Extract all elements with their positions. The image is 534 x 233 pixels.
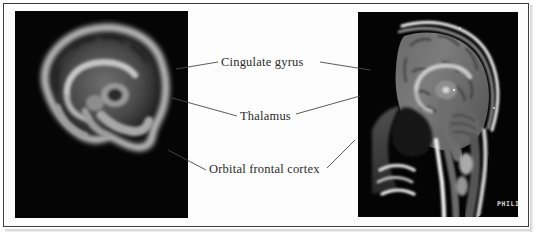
brain-scan-graphic xyxy=(15,11,188,218)
page-shadow-right xyxy=(530,5,533,232)
figure-root: PHILI Cingulate gyrus Thalamus Orbital f… xyxy=(0,0,534,233)
annotation-label-thalamus: Thalamus xyxy=(240,110,291,123)
annotation-label-cingulate-gyrus: Cingulate gyrus xyxy=(221,56,304,69)
head-mri-graphic xyxy=(358,12,518,217)
annotation-label-orbital-frontal-cortex: Orbital frontal cortex xyxy=(209,163,320,176)
page-shadow-bottom xyxy=(5,229,533,232)
sagittal-head-mri: PHILI xyxy=(358,12,518,217)
smoothed-sagittal-brain-scan xyxy=(15,11,188,218)
scanner-watermark: PHILI xyxy=(497,200,518,208)
